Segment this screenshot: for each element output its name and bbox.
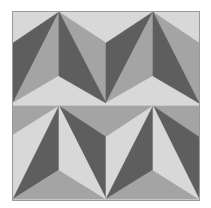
triangle-tessellation <box>0 0 211 208</box>
geometric-pattern-artwork <box>0 0 211 208</box>
